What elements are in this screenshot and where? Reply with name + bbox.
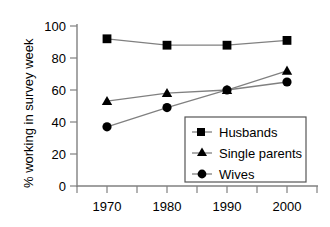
y-tick-label: 20 bbox=[52, 147, 66, 162]
y-tick-label: 60 bbox=[52, 83, 66, 98]
x-tick-label: 2000 bbox=[273, 199, 302, 214]
circle-marker-icon bbox=[198, 170, 207, 179]
square-marker-icon bbox=[197, 128, 205, 136]
square-marker-icon bbox=[283, 36, 292, 45]
line-chart: % working in survey week 100 80 60 40 20… bbox=[0, 0, 330, 227]
x-tick-label: 1980 bbox=[153, 199, 182, 214]
y-tick-label: 80 bbox=[52, 51, 66, 66]
chart-container: % working in survey week 100 80 60 40 20… bbox=[0, 0, 330, 227]
chart-legend: Husbands Single parents Wives bbox=[185, 117, 306, 182]
square-marker-icon bbox=[163, 41, 172, 50]
y-tick-label: 100 bbox=[44, 19, 66, 34]
chart-background bbox=[0, 0, 330, 227]
y-tick-label: 40 bbox=[52, 115, 66, 130]
x-tick-label: 1990 bbox=[213, 199, 242, 214]
square-marker-icon bbox=[223, 41, 232, 50]
x-tick-label: 1970 bbox=[93, 199, 122, 214]
y-tick-label: 0 bbox=[59, 179, 66, 194]
circle-marker-icon bbox=[222, 85, 231, 94]
circle-marker-icon bbox=[162, 103, 171, 112]
circle-marker-icon bbox=[282, 77, 291, 86]
square-marker-icon bbox=[103, 34, 112, 43]
y-axis-title: % working in survey week bbox=[21, 38, 36, 188]
legend-label: Wives bbox=[219, 167, 255, 182]
legend-label: Single parents bbox=[219, 146, 303, 161]
circle-marker-icon bbox=[102, 122, 111, 131]
legend-label: Husbands bbox=[219, 125, 278, 140]
